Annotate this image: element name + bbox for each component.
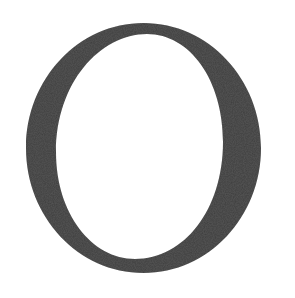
- letter-o-glyph: O: [0, 0, 295, 298]
- letter-o-shape: [0, 0, 295, 298]
- letter-o-ring: [26, 23, 261, 273]
